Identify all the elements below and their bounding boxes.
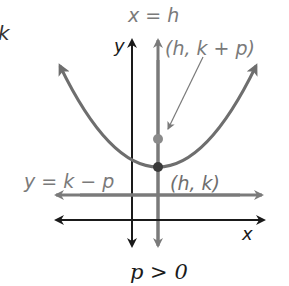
focus-label: (h, k + p) <box>165 37 255 59</box>
vertex-point <box>153 162 163 172</box>
partial-k-label: k <box>0 21 11 45</box>
parabola-diagram: k x = h y y = k − p x (h, k + p) (h, k) … <box>0 0 289 286</box>
axis-of-symmetry-label: x = h <box>127 4 179 26</box>
x-axis-label: x <box>241 223 253 244</box>
directrix-label: y = k − p <box>23 170 114 192</box>
y-axis-label: y <box>113 35 125 56</box>
caption: p > 0 <box>130 260 188 284</box>
focus-pointer <box>168 57 203 129</box>
focus-point <box>153 134 163 144</box>
parabola-left-arrow <box>60 66 158 167</box>
vertex-label: (h, k) <box>170 172 220 194</box>
